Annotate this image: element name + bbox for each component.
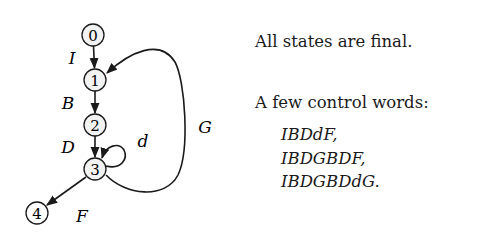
control-words-heading: A few control words: (255, 93, 429, 112)
control-word-1: IBDdF, (281, 125, 338, 144)
final-states-note: All states are final. (255, 32, 412, 51)
edge-3-1-loop (106, 49, 185, 192)
control-word-3: IBDGBDdG. (281, 172, 380, 191)
state-2-label: 2 (90, 117, 100, 135)
edge-label-I: I (68, 48, 76, 68)
edge-label-D: D (60, 137, 75, 157)
state-1: 1 (84, 69, 106, 91)
edge-label-F: F (75, 206, 89, 226)
state-0-label: 0 (88, 27, 98, 45)
edge-label-B: B (61, 93, 75, 113)
state-3-label: 3 (90, 161, 100, 179)
edge-label-G: G (198, 117, 212, 137)
edge-3-3-loop (102, 146, 125, 167)
state-3: 3 (84, 158, 106, 180)
control-word-2: IBDGBDF, (281, 149, 366, 168)
state-4: 4 (26, 202, 48, 224)
edge-0-1 (94, 46, 95, 68)
state-0: 0 (82, 24, 104, 46)
state-2: 2 (84, 114, 106, 136)
automaton-diagram: 0 1 2 3 4 I B D d G F (0, 0, 230, 235)
edge-3-4 (47, 177, 86, 205)
edge-label-d: d (138, 131, 149, 151)
state-1-label: 1 (90, 72, 100, 90)
state-4-label: 4 (32, 205, 42, 223)
